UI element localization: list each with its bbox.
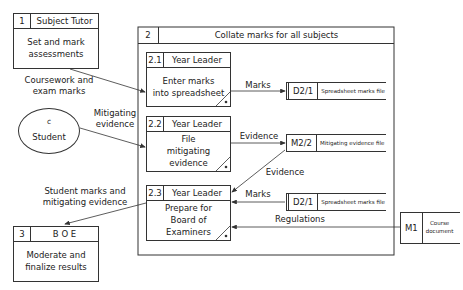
process-2-header: 2 Collate marks for all subjects xyxy=(138,27,394,44)
flow-label-marks-to-store: Marks xyxy=(238,80,278,91)
store-name: Spreadsheet marks file xyxy=(318,83,388,99)
entity-name: Student xyxy=(19,132,79,142)
store-name: Course document xyxy=(423,213,457,243)
flow-label-coursework-marks: Coursework and exam marks xyxy=(14,75,104,97)
process-3-boe: 3 B O E Moderate and finalize results xyxy=(13,226,99,282)
flow-label-marks-from-store: Marks xyxy=(238,189,278,200)
store-id: M1 xyxy=(400,213,423,243)
flow-label-evidence-from-store: Evidence xyxy=(262,167,308,178)
data-store-m1: M1 Course document xyxy=(400,212,460,244)
process-role: Year Leader xyxy=(164,53,230,67)
store-name: Mitigating evidence file xyxy=(317,135,387,151)
process-id: 1 xyxy=(14,14,31,28)
process-2-2-file-evidence: 2.2 Year Leader File mitigating evidence xyxy=(146,116,231,172)
data-store-d2-1-top: D2/1 Spreadsheet marks file xyxy=(286,82,386,100)
store-id: M2/2 xyxy=(286,135,317,151)
process-description: Moderate and finalize results xyxy=(14,241,98,281)
process-description: Collate marks for all subjects xyxy=(159,27,394,43)
corner-marker-icon xyxy=(216,157,230,171)
process-id: 2 xyxy=(138,27,159,43)
process-role: Subject Tutor xyxy=(31,14,98,28)
corner-marker-icon xyxy=(216,92,230,106)
flow-label-student-marks: Student marks and mitigating evidence xyxy=(30,186,140,208)
flow-label-evidence-to-store: Evidence xyxy=(236,131,282,142)
process-description: Set and mark assessments xyxy=(14,28,98,68)
process-id: 3 xyxy=(14,227,31,241)
process-2-3-prepare-boe: 2.3 Year Leader Prepare for Board of Exa… xyxy=(146,185,231,241)
process-id: 2.3 xyxy=(147,186,164,200)
process-role: B O E xyxy=(31,227,98,241)
process-role: Year Leader xyxy=(164,186,230,200)
corner-marker-icon xyxy=(216,226,230,240)
process-role: Year Leader xyxy=(164,117,230,131)
process-id: 2.1 xyxy=(147,53,164,67)
data-store-m2-2: M2/2 Mitigating evidence file xyxy=(286,134,386,152)
data-store-d2-1-bottom: D2/1 Spreadsheet marks file xyxy=(286,193,386,211)
entity-id: c xyxy=(19,117,79,126)
process-2-1-enter-marks: 2.1 Year Leader Enter marks into spreads… xyxy=(146,52,231,107)
store-name: Spreadsheet marks file xyxy=(318,194,388,210)
process-id: 2.2 xyxy=(147,117,164,131)
store-id: D2/1 xyxy=(286,194,318,210)
process-1-subject-tutor: 1 Subject Tutor Set and mark assessments xyxy=(13,13,99,69)
store-id: D2/1 xyxy=(286,83,318,99)
flow-label-regulations: Regulations xyxy=(270,214,330,225)
external-entity-student: c Student xyxy=(18,108,80,154)
flow-label-mitigating-evidence: Mitigating evidence xyxy=(85,108,145,130)
